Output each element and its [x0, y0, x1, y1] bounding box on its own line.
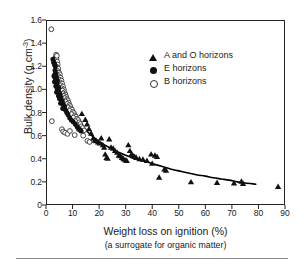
x-axis-subtitle: (a surrogate for organic matter) — [46, 240, 285, 250]
triangle-marker-icon — [148, 50, 159, 63]
x-tick-label: 70 — [227, 208, 236, 218]
x-tick-label: 80 — [254, 208, 263, 218]
x-axis-tick-labels: 0102030405060708090 — [46, 208, 285, 222]
x-tick-label: 90 — [280, 208, 289, 218]
x-tick-label: 50 — [174, 208, 183, 218]
y-axis-title-exponent: -3 — [22, 42, 30, 48]
x-tick-label: 10 — [68, 208, 77, 218]
open-circle-marker-icon — [148, 76, 159, 89]
x-tick-label: 30 — [121, 208, 130, 218]
legend-item-label: A and O horizons — [164, 50, 233, 60]
y-axis-title: Bulk density (g cm-3) — [22, 11, 35, 161]
y-axis-title-suffix: ) — [22, 38, 34, 42]
y-axis-title-prefix: Bulk density (g cm — [22, 48, 34, 134]
x-tick-label: 40 — [148, 208, 157, 218]
figure-scatter-bulk-density: 00.20.40.60.81.01.21.41.6 01020304050607… — [0, 0, 303, 266]
plot-frame — [46, 20, 285, 205]
y-tick-label: 0 — [37, 200, 42, 210]
x-tick-label: 60 — [201, 208, 210, 218]
x-tick-label: 0 — [44, 208, 49, 218]
legend-item-label: B horizons — [164, 76, 207, 86]
footer-divider — [16, 258, 288, 259]
x-tick-label: 20 — [94, 208, 103, 218]
x-axis-title: Weight loss on ignition (%) — [46, 225, 285, 237]
y-tick-label: 0.2 — [30, 177, 42, 187]
filled-circle-marker-icon — [148, 63, 159, 76]
legend-item-label: E horizons — [164, 63, 207, 73]
